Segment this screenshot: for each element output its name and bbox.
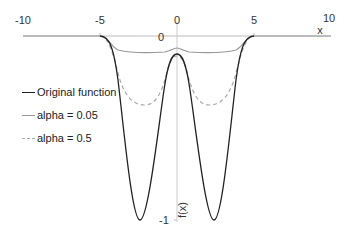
legend-label: alpha = 0.05 xyxy=(37,109,98,121)
legend-label: Original function xyxy=(37,86,117,98)
y-tick-label: -1 xyxy=(159,214,169,226)
legend-item: Original function xyxy=(22,86,117,98)
legend-item: alpha = 0.05 xyxy=(22,109,98,121)
x-tick-label: -5 xyxy=(95,14,105,26)
x-tick-label: 5 xyxy=(251,14,257,26)
legend-label: alpha = 0.5 xyxy=(37,132,92,144)
legend-swatch xyxy=(22,92,35,93)
legend-swatch xyxy=(22,138,35,139)
x-tick-label: 10 xyxy=(323,12,335,24)
y-axis-label: f(x) xyxy=(176,202,188,218)
legend-swatch xyxy=(22,115,35,116)
legend-item: alpha = 0.5 xyxy=(22,132,92,144)
x-tick-label: -10 xyxy=(15,14,31,26)
x-tick-label: 0 xyxy=(174,14,180,26)
y-tick-label: 0 xyxy=(158,31,164,43)
x-axis-label: x xyxy=(317,24,323,36)
